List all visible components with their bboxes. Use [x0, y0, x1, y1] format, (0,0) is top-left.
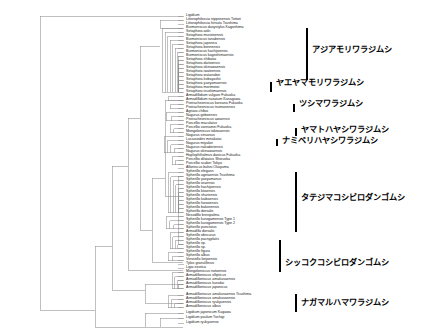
clade-bracket	[306, 28, 308, 80]
clade-bracket	[270, 82, 272, 92]
clade-label: ナガマルハマワラジムシ	[301, 298, 389, 307]
clade-label: ヤエヤマモリワラジムシ	[276, 78, 364, 87]
clade-bracket	[295, 294, 297, 312]
clade-bracket	[293, 104, 295, 112]
clade-label: ナミベリハヤシワラジムシ	[282, 136, 378, 145]
clade-bracket	[276, 139, 278, 146]
clade-bracket	[295, 172, 297, 232]
clade-label: ツシマワラジムシ	[299, 99, 363, 108]
clade-label: タテジマコシビロダンゴムシ	[301, 193, 405, 202]
tree-labels-layer: LigidiumLittorophiloscia nipponensis Tot…	[0, 0, 431, 334]
clade-label: シッコクコシビロダンゴムシ	[285, 258, 389, 267]
clade-bracket	[279, 240, 281, 272]
clade-label: ヤマトハヤシワラジムシ	[301, 125, 389, 134]
taxon-label: Armadilloniscus albus	[186, 305, 221, 309]
clade-label: アジアモリワラジムシ	[312, 45, 392, 54]
taxon-label: Armadilloniscus japonicus	[186, 286, 227, 290]
phylogenetic-tree-figure: LigidiumLittorophiloscia nipponensis Tot…	[0, 0, 431, 334]
taxon-label: Ligidium ryukyuense	[186, 321, 219, 325]
